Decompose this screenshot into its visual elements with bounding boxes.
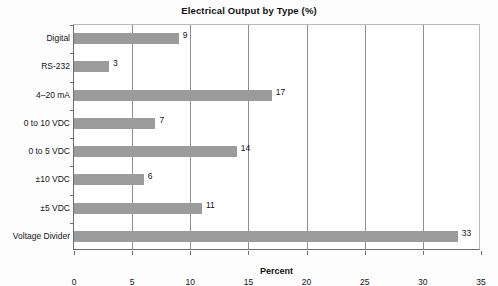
- bar-value-label: 6: [148, 171, 153, 182]
- bar-row: 17: [74, 82, 479, 110]
- bar[interactable]: [74, 61, 109, 72]
- bar-chart: Electrical Output by Type (%) 0510152025…: [0, 0, 498, 286]
- bar-row: 33: [74, 223, 479, 251]
- x-axis-tick-label: 20: [287, 277, 327, 286]
- x-axis-title: Percent: [73, 266, 480, 276]
- y-axis-category-label: Voltage Divider: [2, 231, 70, 241]
- chart-title: Electrical Output by Type (%): [0, 5, 498, 16]
- x-axis-tick: [423, 251, 424, 255]
- bar[interactable]: [74, 203, 202, 214]
- bar[interactable]: [74, 33, 179, 44]
- x-axis-tick-label: 25: [345, 277, 385, 286]
- x-axis-tick: [481, 251, 482, 255]
- y-axis-category-label: ±10 VDC: [2, 174, 70, 184]
- x-axis-tick-label: 15: [228, 277, 268, 286]
- bar-value-label: 9: [183, 30, 188, 41]
- bar-value-label: 14: [241, 143, 250, 154]
- x-axis-tick-label: 0: [54, 277, 94, 286]
- bar-row: 3: [74, 53, 479, 81]
- bar-row: 7: [74, 110, 479, 138]
- x-axis-tick: [132, 251, 133, 255]
- x-axis-tick: [307, 251, 308, 255]
- bar[interactable]: [74, 118, 155, 129]
- x-axis-tick-label: 35: [461, 277, 498, 286]
- x-axis-tick: [190, 251, 191, 255]
- y-axis-category-label: 4–20 mA: [2, 90, 70, 100]
- bar[interactable]: [74, 231, 458, 242]
- x-axis-tick: [74, 251, 75, 255]
- bar-row: 6: [74, 166, 479, 194]
- bar-row: 9: [74, 25, 479, 53]
- y-axis-category-label: 0 to 5 VDC: [2, 146, 70, 156]
- bar[interactable]: [74, 174, 144, 185]
- x-axis-tick: [248, 251, 249, 255]
- bar-value-label: 7: [159, 115, 164, 126]
- x-axis-tick-label: 30: [403, 277, 443, 286]
- x-axis-tick-label: 5: [112, 277, 152, 286]
- bar-value-label: 3: [113, 58, 118, 69]
- bar[interactable]: [74, 90, 272, 101]
- x-axis-tick: [365, 251, 366, 255]
- y-axis-category-label: Digital: [2, 33, 70, 43]
- y-axis-category-label: 0 to 10 VDC: [2, 118, 70, 128]
- y-axis-category-label: RS-232: [2, 61, 70, 71]
- plot-area: 05101520253035Digital9RS-23234–20 mA170 …: [73, 24, 480, 250]
- bar-value-label: 11: [206, 200, 215, 211]
- bar[interactable]: [74, 146, 237, 157]
- bar-value-label: 17: [276, 87, 285, 98]
- bar-row: 14: [74, 138, 479, 166]
- y-axis-category-label: ±5 VDC: [2, 203, 70, 213]
- bar-value-label: 33: [462, 228, 471, 239]
- bar-row: 11: [74, 195, 479, 223]
- x-axis-tick-label: 10: [170, 277, 210, 286]
